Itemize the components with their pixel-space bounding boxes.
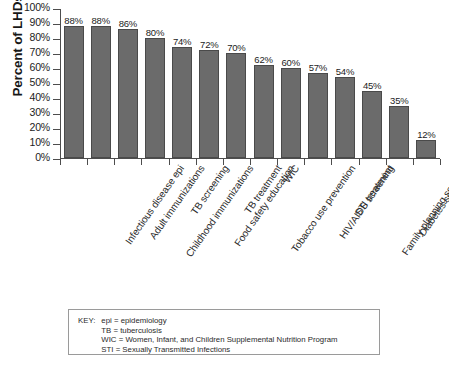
x-axis-label: Tobacco use prevention <box>290 163 358 254</box>
bar-value-label: 57% <box>309 62 327 73</box>
y-tick-label: 40% <box>30 91 50 103</box>
key-line: STI = Sexually Transmitted Infections <box>101 345 337 355</box>
chart-plot-area: 100%90%80%70%60%50%40%30%20%10%0% 88%88%… <box>60 9 440 159</box>
bar-value-label: 35% <box>390 95 408 106</box>
key-lines: epi = epidemiologyTB = tuberculosisWIC =… <box>101 316 337 354</box>
bar: 45% <box>362 91 382 159</box>
bar: 62% <box>254 65 274 158</box>
bar: 35% <box>389 106 409 159</box>
bar-value-label: 88% <box>91 15 109 26</box>
y-tick-label: 20% <box>30 121 50 133</box>
bar-value-label: 62% <box>254 54 272 65</box>
y-axis-line <box>60 9 61 159</box>
x-tick <box>440 159 441 165</box>
key-legend-box: KEY: epi = epidemiologyTB = tuberculosis… <box>68 309 380 355</box>
y-axis-title: Percent of LHDs <box>10 0 25 111</box>
y-tick-label: 10% <box>30 136 50 148</box>
bar: 54% <box>335 77 355 158</box>
bar-value-label: 88% <box>64 15 82 26</box>
y-tick: 20% <box>53 129 60 130</box>
y-tick-label: 50% <box>30 76 50 88</box>
y-tick: 80% <box>53 39 60 40</box>
bar-value-label: 74% <box>173 36 191 47</box>
bar: 80% <box>145 38 165 158</box>
y-tick-label: 30% <box>30 106 50 118</box>
y-tick: 70% <box>53 54 60 55</box>
bar: 86% <box>118 29 138 158</box>
y-tick: 10% <box>53 144 60 145</box>
x-axis-label: Diabetes screening <box>417 163 449 238</box>
bar-value-label: 12% <box>417 129 435 140</box>
bar-value-label: 72% <box>200 39 218 50</box>
key-line: TB = tuberculosis <box>101 326 337 336</box>
x-axis-label: STI treatment <box>352 163 395 218</box>
y-tick: 90% <box>53 24 60 25</box>
key-line: epi = epidemiology <box>101 316 337 326</box>
key-line: WIC = Women, Infant, and Children Supple… <box>101 335 337 345</box>
y-tick-label: 100% <box>24 1 50 13</box>
y-tick: 60% <box>53 69 60 70</box>
bar-value-label: 70% <box>227 42 245 53</box>
bar: 88% <box>91 26 111 158</box>
key-title: KEY: <box>78 316 95 354</box>
bar: 74% <box>172 47 192 158</box>
bar: 60% <box>281 68 301 158</box>
bar-value-label: 45% <box>363 80 381 91</box>
y-tick: 0% <box>53 159 60 160</box>
y-tick: 30% <box>53 114 60 115</box>
bar-value-label: 60% <box>281 57 299 68</box>
y-tick: 50% <box>53 84 60 85</box>
y-tick-label: 80% <box>30 31 50 43</box>
bar: 12% <box>416 140 436 158</box>
x-axis-labels: Infectious disease epiAdult immunization… <box>60 159 440 299</box>
y-tick: 100% <box>53 9 60 10</box>
bar-value-label: 86% <box>119 18 137 29</box>
bar-value-label: 54% <box>336 66 354 77</box>
y-tick-label: 90% <box>30 16 50 28</box>
bar: 88% <box>64 26 84 158</box>
y-tick-label: 60% <box>30 61 50 73</box>
bar: 57% <box>308 73 328 159</box>
bar-value-label: 80% <box>146 27 164 38</box>
bar: 70% <box>226 53 246 158</box>
y-tick-label: 0% <box>35 151 50 163</box>
y-tick: 40% <box>53 99 60 100</box>
bar: 72% <box>199 50 219 158</box>
y-tick-label: 70% <box>30 46 50 58</box>
